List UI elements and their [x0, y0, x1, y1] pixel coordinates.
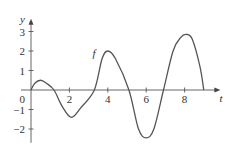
y-tick-label: 1	[20, 65, 26, 77]
annotations: f	[92, 47, 97, 59]
ticks	[29, 32, 185, 130]
axes	[21, 19, 220, 143]
y-tick-label: 2	[20, 45, 26, 57]
y-axis-arrow	[29, 19, 34, 25]
series	[31, 34, 204, 137]
curve-label-f: f	[92, 47, 97, 59]
x-tick-label: 2	[67, 93, 73, 105]
y-tick-label: 3	[20, 26, 26, 38]
y-axis-label: y	[19, 13, 25, 25]
series-line-f	[31, 34, 204, 137]
x-tick-label: 6	[143, 93, 149, 105]
y-tick-label: −1	[13, 104, 25, 116]
chart: ty2468−2−11230 f	[0, 0, 225, 150]
x-tick-label: 4	[105, 93, 111, 105]
tick-labels: ty2468−2−11230	[13, 13, 223, 135]
x-axis-label: t	[219, 92, 223, 104]
y-tick-label: −2	[13, 123, 25, 135]
x-tick-label: 8	[182, 93, 188, 105]
origin-label: 0	[20, 93, 26, 105]
